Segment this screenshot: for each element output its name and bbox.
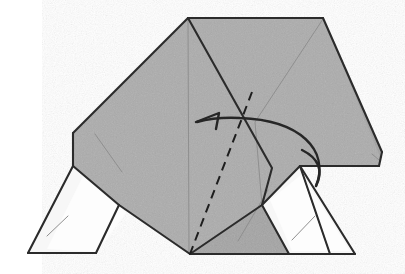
origami-diagram-figure — [0, 0, 405, 274]
origami-illustration — [0, 0, 405, 274]
